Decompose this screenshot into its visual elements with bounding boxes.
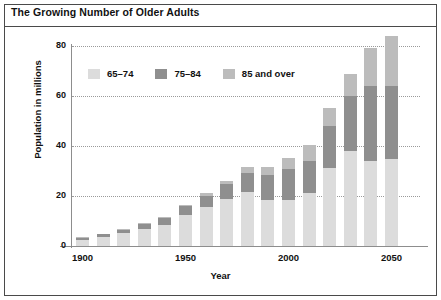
bar-segment [385,36,398,86]
bar [76,237,89,246]
bar-segment [200,207,213,246]
bar [344,74,357,247]
bar-segment [385,159,398,246]
bar-segment [303,193,316,246]
bar-segment [220,184,233,199]
bar-segment [303,145,316,160]
bar-segment [344,74,357,97]
bar-segment [97,237,110,246]
bar-segment [138,229,151,246]
bar-segment [220,199,233,246]
bar-segment [158,225,171,246]
x-axis-title: Year [0,270,441,281]
bar-segment [158,218,171,225]
legend-swatch [223,69,235,79]
legend-swatch [155,69,167,79]
bar-segment [344,151,357,246]
chart-title: The Growing Number of Older Adults [11,6,200,18]
bar-segment [323,126,336,168]
y-tick-label: 20 [38,190,66,200]
bar-segment [76,240,89,247]
bar-segment [303,161,316,194]
x-tick-label: 1900 [61,252,105,263]
bar [323,108,336,246]
legend-item: 65–74 [88,68,133,79]
bar [179,205,192,246]
bar-segment [179,215,192,246]
bar-segment [179,206,192,215]
bar-segment [364,48,377,87]
x-tick-label: 2050 [370,252,414,263]
bar [241,167,254,246]
bar-segment [344,96,357,151]
bar [158,217,171,246]
bar-segment [364,161,377,246]
legend-swatch [88,69,100,79]
bar [364,48,377,246]
legend-item: 75–84 [155,68,200,79]
bar-segment [200,196,213,208]
bar-segment [282,200,295,246]
bar-segment [241,192,254,246]
bar-segment [261,175,274,200]
bar-segment [241,173,254,192]
bar-segment [364,86,377,161]
bar [282,158,295,246]
bar-segment [385,86,398,160]
chart-figure: The Growing Number of Older Adults 02040… [0,0,441,300]
legend-label: 65–74 [107,68,133,79]
bar [220,181,233,247]
y-axis-title: Population in millions [32,35,43,185]
legend-label: 75–84 [174,68,200,79]
bar [385,36,398,246]
legend-label: 85 and over [242,68,295,79]
bar [117,229,130,246]
legend-item: 85 and over [223,68,295,79]
y-tick-label: 0 [38,240,66,250]
bar-segment [323,168,336,247]
chart-legend: 65–7475–8485 and over [88,68,317,79]
x-tick-label: 1950 [164,252,208,263]
bar-segment [117,233,130,246]
bar [200,193,213,246]
bar [97,234,110,246]
bar [303,145,316,246]
x-tick-label: 2000 [267,252,311,263]
bar-segment [282,169,295,200]
bar-segment [282,158,295,169]
x-axis-line [60,246,428,247]
bar [261,167,274,246]
bar-segment [261,200,274,246]
bar-segment [261,167,274,175]
bar-segment [323,108,336,126]
bar [138,223,151,246]
